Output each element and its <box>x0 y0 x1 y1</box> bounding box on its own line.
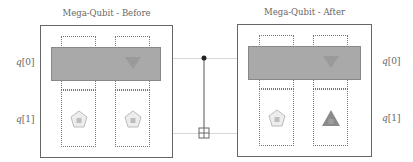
pentagon-icon <box>70 110 88 128</box>
right-q0-label: q[0] <box>382 56 401 66</box>
q1-index: [1] <box>388 113 401 123</box>
pentagon-icon <box>268 109 286 127</box>
left-q1-label: q[1] <box>16 114 35 124</box>
panel-before-title: Mega-Qubit - Before <box>40 8 173 18</box>
q0-index: [0] <box>22 57 35 67</box>
left-q0-label: q[0] <box>16 57 35 67</box>
control-dot-icon <box>202 56 207 61</box>
mega-qubit-after-box <box>237 24 372 157</box>
right-q1-label: q[1] <box>382 113 401 123</box>
q0-index: [0] <box>388 56 401 66</box>
right-bar-triangle-icon <box>323 56 339 68</box>
left-entangle-bar <box>51 47 161 81</box>
panel-after-title: Mega-Qubit - After <box>237 7 372 17</box>
pentagon-icon <box>124 110 142 128</box>
q1-index: [1] <box>22 114 35 124</box>
right-entangle-bar <box>248 46 361 80</box>
left-bar-triangle-icon <box>125 57 141 69</box>
cnot-gate <box>196 54 212 140</box>
mega-qubit-before-box <box>40 25 173 158</box>
triangle-icon <box>321 109 341 127</box>
